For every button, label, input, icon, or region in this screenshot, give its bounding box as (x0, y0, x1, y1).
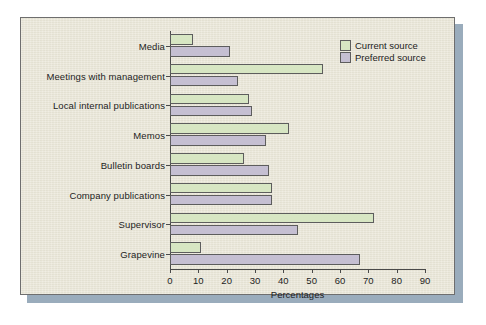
x-axis-tick (397, 269, 398, 273)
legend-label: Preferred source (355, 52, 426, 63)
x-axis-tick-label: 50 (306, 275, 317, 286)
category-label: Bulletin boards (101, 159, 165, 170)
category-label: Memos (133, 130, 165, 141)
bar-current-source (170, 64, 323, 75)
x-axis-tick (312, 269, 313, 273)
bar-current-source (170, 94, 249, 105)
bar-preferred-source (170, 106, 252, 117)
bar-row: Grapevine (170, 239, 425, 269)
bar-preferred-source (170, 195, 272, 206)
bar-preferred-source (170, 76, 238, 87)
bar-preferred-source (170, 254, 360, 265)
bar-current-source (170, 34, 193, 45)
bar-current-source (170, 153, 244, 164)
category-label: Grapevine (120, 249, 165, 260)
x-axis-tick (255, 269, 256, 273)
x-axis-tick-label: 10 (193, 275, 204, 286)
x-axis-tick-label: 90 (420, 275, 431, 286)
bar-current-source (170, 123, 289, 134)
x-axis-tick-label: 40 (278, 275, 289, 286)
bar-row: Supervisor (170, 210, 425, 240)
bar-current-source (170, 213, 374, 224)
figure-root: MediaMeetings with managementLocal inter… (0, 0, 486, 325)
x-axis-tick (368, 269, 369, 273)
x-axis-tick-label: 80 (391, 275, 402, 286)
x-axis-line (170, 269, 426, 270)
category-label: Media (139, 40, 165, 51)
bar-row: Meetings with management (170, 61, 425, 91)
x-axis-tick (198, 269, 199, 273)
bar-preferred-source (170, 46, 230, 57)
plot-area: MediaMeetings with managementLocal inter… (170, 31, 425, 269)
bar-preferred-source (170, 165, 269, 176)
x-axis-tick (340, 269, 341, 273)
x-axis-tick-label: 30 (250, 275, 261, 286)
bar-row: Local internal publications (170, 91, 425, 121)
category-label: Meetings with management (46, 70, 165, 81)
x-axis-tick-label: 0 (167, 275, 172, 286)
x-axis-tick (425, 269, 426, 273)
category-label: Company publications (70, 189, 165, 200)
x-axis-tick-label: 20 (221, 275, 232, 286)
x-axis-title: Percentages (170, 289, 425, 300)
bar-row: Bulletin boards (170, 150, 425, 180)
chart-panel: MediaMeetings with managementLocal inter… (20, 17, 455, 295)
x-axis-tick (170, 269, 171, 273)
bar-preferred-source (170, 225, 298, 236)
category-label: Local internal publications (53, 100, 165, 111)
legend-item: Current source (340, 40, 426, 51)
category-label: Supervisor (119, 219, 165, 230)
x-axis-tick-label: 70 (363, 275, 374, 286)
legend-swatch-icon (340, 52, 351, 63)
bar-preferred-source (170, 135, 266, 146)
x-axis-tick (227, 269, 228, 273)
bar-current-source (170, 242, 201, 253)
bar-current-source (170, 183, 272, 194)
bar-row: Company publications (170, 180, 425, 210)
x-axis-tick (283, 269, 284, 273)
legend-swatch-icon (340, 40, 351, 51)
chart-legend: Current sourcePreferred source (340, 40, 426, 63)
bar-row: Memos (170, 120, 425, 150)
legend-label: Current source (355, 40, 418, 51)
x-axis-tick-label: 60 (335, 275, 346, 286)
legend-item: Preferred source (340, 52, 426, 63)
